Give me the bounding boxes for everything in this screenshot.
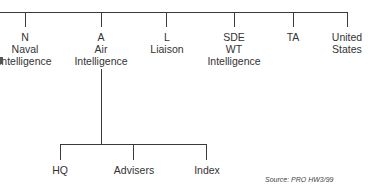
node-hq: HQ bbox=[52, 164, 68, 176]
node-code: L bbox=[150, 31, 183, 43]
node-code: TA bbox=[287, 31, 300, 43]
source-note: Source: PRO HW3/99 bbox=[265, 176, 333, 183]
node-sde-wt-intelligence: SDE WT Intelligence bbox=[207, 31, 260, 67]
node-ta: TA bbox=[287, 31, 300, 43]
node-label: Air bbox=[74, 43, 127, 55]
node-label: Index bbox=[194, 164, 220, 176]
connector-sde bbox=[234, 12, 235, 27]
node-label: Advisers bbox=[114, 164, 154, 176]
node-code: A bbox=[74, 31, 127, 43]
node-label: HQ bbox=[52, 164, 68, 176]
node-advisers: Advisers bbox=[114, 164, 154, 176]
connector-l bbox=[166, 12, 167, 27]
node-label: Intelligence bbox=[0, 55, 52, 67]
scan-mark bbox=[0, 57, 3, 64]
node-label: States bbox=[332, 43, 362, 55]
node-naval-intelligence: N Naval Intelligence bbox=[0, 31, 52, 67]
node-code: N bbox=[0, 31, 52, 43]
connector-n bbox=[25, 12, 26, 27]
node-air-intelligence: A Air Intelligence bbox=[74, 31, 127, 67]
node-label: United bbox=[332, 31, 362, 43]
node-liaison: L Liaison bbox=[150, 31, 183, 55]
node-label: Intelligence bbox=[207, 55, 260, 67]
node-label: Naval bbox=[0, 43, 52, 55]
node-label: Intelligence bbox=[74, 55, 127, 67]
connector-us bbox=[347, 12, 348, 27]
connector-hq bbox=[60, 144, 61, 160]
connector-advisers bbox=[133, 144, 134, 160]
node-label: WT bbox=[207, 43, 260, 55]
node-united-states: United States bbox=[332, 31, 362, 55]
node-label: Liaison bbox=[150, 43, 183, 55]
connector-ta bbox=[293, 12, 294, 27]
top-connector bbox=[0, 12, 348, 13]
connector-index bbox=[206, 144, 207, 160]
node-index: Index bbox=[194, 164, 220, 176]
air-intelligence-stem bbox=[101, 69, 102, 145]
connector-a bbox=[101, 12, 102, 27]
node-code: SDE bbox=[207, 31, 260, 43]
